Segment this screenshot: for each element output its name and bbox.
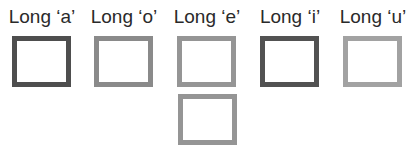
label-long-e: Long ‘e’ xyxy=(162,6,252,28)
label-long-a: Long ‘a’ xyxy=(0,6,87,28)
box-long-e xyxy=(177,36,236,87)
label-long-u: Long ‘u’ xyxy=(328,6,413,28)
box-long-a xyxy=(12,36,71,87)
box-long-e-extra xyxy=(178,94,237,145)
label-long-i: Long ‘i’ xyxy=(245,6,335,28)
box-long-i xyxy=(260,36,319,87)
box-long-o xyxy=(94,36,153,87)
box-long-u xyxy=(343,36,402,87)
label-long-o: Long ‘o’ xyxy=(79,6,169,28)
